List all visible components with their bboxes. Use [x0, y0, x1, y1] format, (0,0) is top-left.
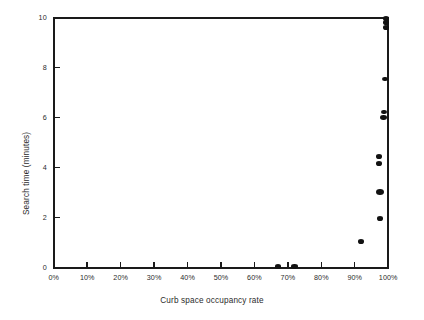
data-point [358, 239, 364, 244]
y-tick-mark [53, 167, 60, 169]
x-tick-mark [220, 262, 222, 269]
x-tick-mark [120, 262, 122, 269]
data-point [376, 161, 382, 166]
data-point [381, 110, 387, 115]
x-tick-mark [254, 262, 256, 269]
data-point [383, 25, 389, 30]
x-tick-mark [354, 262, 356, 269]
data-point [376, 189, 384, 195]
x-axis-title: Curb space occupancy rate [0, 296, 424, 305]
y-axis-title: Search time (minutes) [22, 132, 31, 215]
y-tick-mark [53, 17, 60, 19]
y-tick-mark [53, 117, 60, 119]
y-tick-mark [53, 267, 60, 269]
y-tick-mark [53, 67, 60, 69]
plot-right-border [387, 17, 389, 269]
data-point [377, 216, 383, 221]
y-tick-label: 10 [14, 13, 47, 22]
y-axis-line [53, 17, 55, 269]
plot-top-border [53, 17, 389, 19]
y-tick-label: 0 [14, 263, 47, 272]
data-point [380, 115, 386, 120]
y-tick-mark [53, 217, 60, 219]
x-tick-mark [86, 262, 88, 269]
data-point [376, 154, 382, 159]
scatter-chart: 0%10%20%30%40%50%60%70%80%90%100% 024681… [0, 0, 424, 320]
x-tick-mark [387, 262, 389, 269]
y-tick-label: 6 [14, 113, 47, 122]
x-tick-mark [187, 262, 189, 269]
y-tick-label: 8 [14, 63, 47, 72]
x-tick-mark [321, 262, 323, 269]
data-point [383, 16, 389, 21]
x-tick-mark [153, 262, 155, 269]
x-tick-mark [287, 262, 289, 269]
x-tick-label: 100% [368, 273, 408, 282]
